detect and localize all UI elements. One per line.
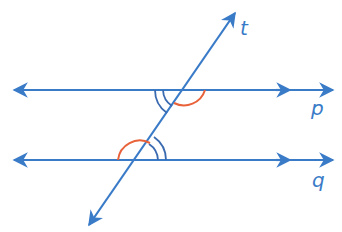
double-arc-outer: [154, 137, 166, 160]
label-p: p: [311, 98, 324, 118]
double-arc-inner: [149, 144, 158, 160]
label-t: t: [240, 18, 248, 38]
transversal-t: [89, 13, 235, 225]
double-arc-outer: [155, 90, 167, 113]
label-q: q: [312, 170, 325, 190]
double-arc-inner: [163, 90, 172, 106]
diagram-canvas: [0, 0, 342, 232]
orange-arc: [174, 90, 205, 105]
parallel-lines-diagram: t p q: [0, 0, 342, 232]
